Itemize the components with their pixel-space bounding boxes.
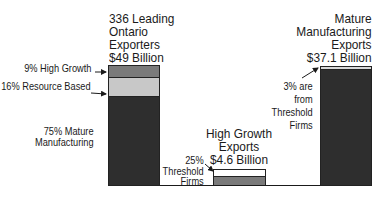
arrow-resource-icon xyxy=(91,93,106,94)
arrows-and-baseline xyxy=(0,0,381,197)
arrow-threshold-25-icon xyxy=(205,164,213,171)
arrow-threshold-3-icon xyxy=(302,68,318,78)
